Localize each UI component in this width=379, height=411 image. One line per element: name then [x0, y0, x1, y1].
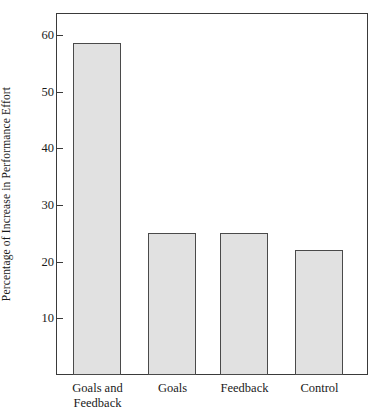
x-label-line1: Goals and — [55, 381, 140, 396]
y-tick-mark-30 — [56, 205, 63, 206]
y-tick-label-20: 20 — [14, 256, 54, 268]
y-tick-label-60: 60 — [14, 29, 54, 41]
y-tick-mark-60 — [56, 35, 63, 36]
y-tick-label-30: 30 — [14, 199, 54, 211]
bar-feedback[interactable] — [220, 233, 268, 375]
y-tick-label-10: 10 — [14, 312, 54, 324]
y-tick-label-40: 40 — [14, 142, 54, 154]
x-label-control: Control — [277, 381, 362, 396]
bar-chart: Percentage of Increase in Performance Ef… — [0, 0, 379, 411]
bar-control[interactable] — [295, 250, 343, 375]
x-label-feedback: Feedback — [202, 381, 287, 396]
y-tick-mark-50 — [56, 92, 63, 93]
y-tick-mark-10 — [56, 318, 63, 319]
x-label-line1: Feedback — [202, 381, 287, 396]
y-tick-mark-20 — [56, 262, 63, 263]
bar-goals[interactable] — [148, 233, 196, 375]
y-tick-mark-40 — [56, 148, 63, 149]
x-label-line1: Control — [277, 381, 362, 396]
y-tick-label-50: 50 — [14, 86, 54, 98]
x-label-line2: Feedback — [55, 396, 140, 411]
x-label-goals-and-feedback: Goals and Feedback — [55, 381, 140, 411]
bar-goals-and-feedback[interactable] — [73, 43, 121, 375]
